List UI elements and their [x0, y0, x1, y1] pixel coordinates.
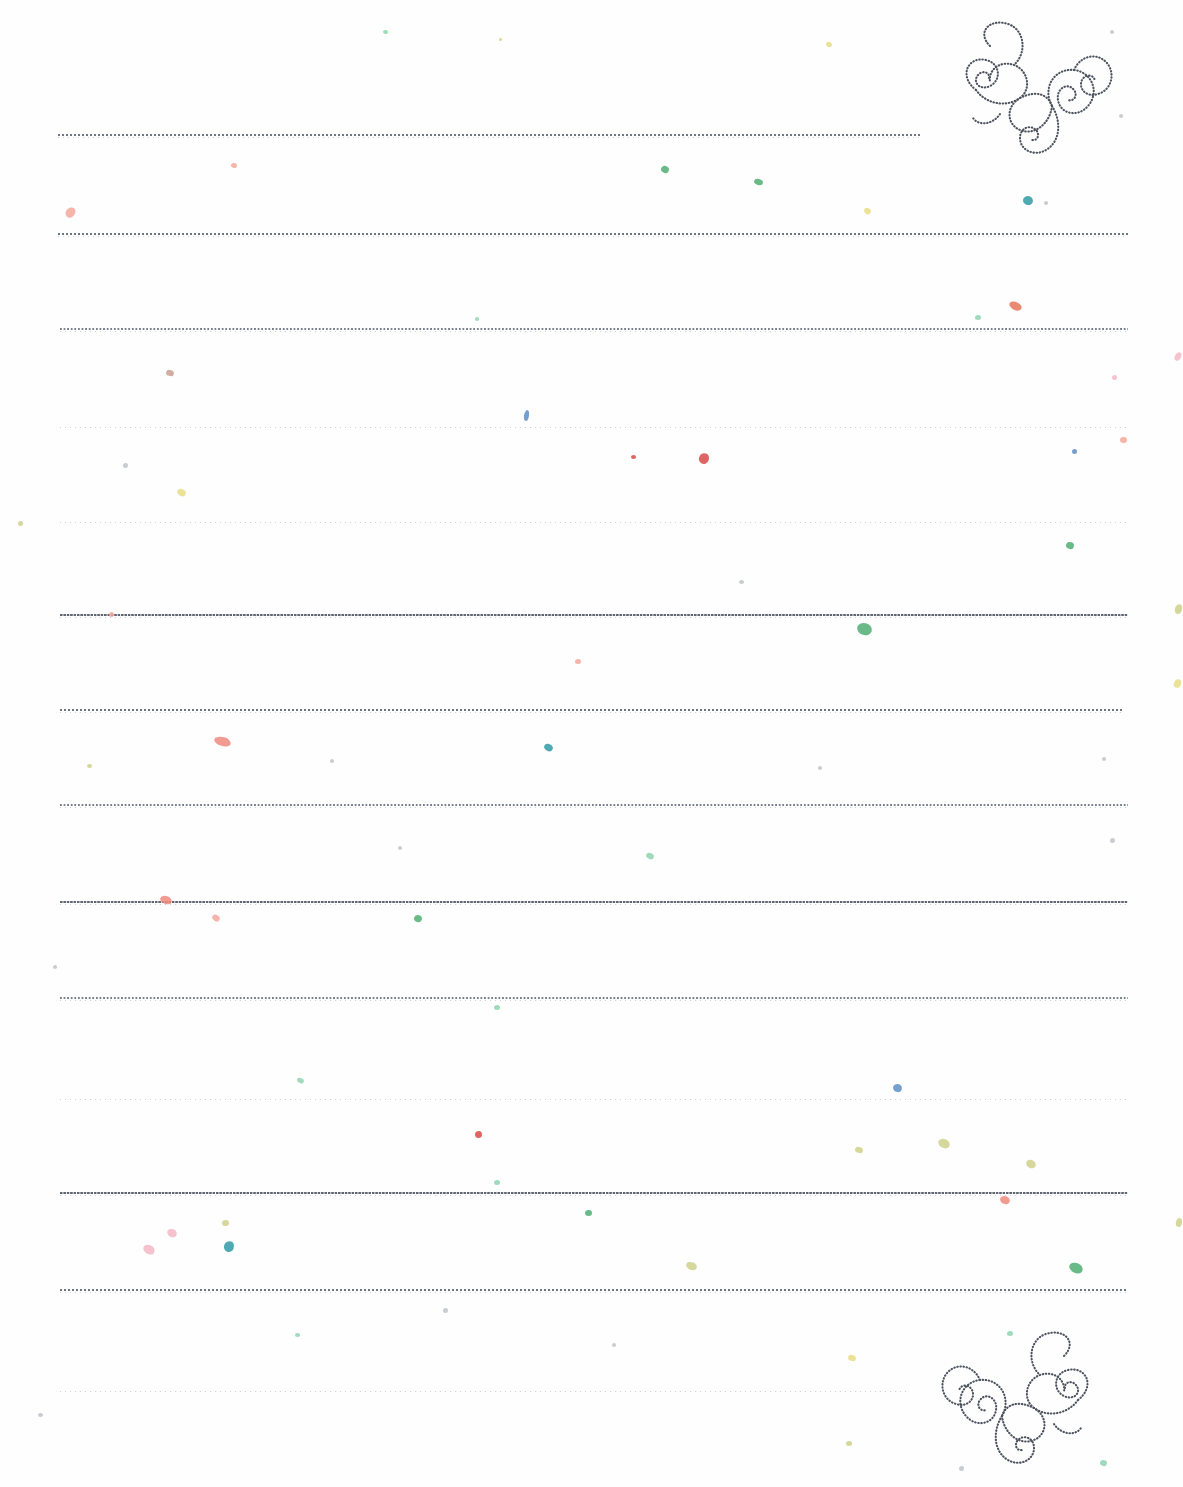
confetti-speck [64, 205, 78, 219]
confetti-speck [87, 764, 92, 768]
confetti-speck [854, 1146, 864, 1154]
confetti-speck [585, 1210, 592, 1216]
ruled-line [58, 134, 920, 136]
confetti-speck [612, 1343, 616, 1347]
ruled-line [60, 1192, 1128, 1194]
confetti-speck [1102, 757, 1106, 761]
confetti-speck [892, 1083, 903, 1093]
confetti-speck [383, 30, 389, 35]
ruled-line [60, 901, 1128, 903]
confetti-speck [863, 206, 872, 215]
confetti-speck [18, 521, 23, 526]
confetti-speck [494, 1005, 500, 1010]
confetti-speck [660, 164, 671, 174]
confetti-speck [38, 1413, 43, 1417]
ruled-line [60, 804, 1128, 806]
ruled-line [60, 614, 1128, 616]
confetti-speck [543, 742, 554, 753]
confetti-speck [222, 1240, 235, 1254]
confetti-speck [1173, 351, 1183, 362]
confetti-speck [937, 1137, 952, 1150]
confetti-speck [1022, 195, 1033, 206]
confetti-speck [142, 1243, 157, 1257]
confetti-speck [975, 315, 981, 320]
confetti-speck [1072, 449, 1077, 454]
ruled-line [60, 328, 1128, 330]
confetti-speck [494, 1180, 500, 1185]
confetti-speck [959, 1466, 964, 1471]
ruled-line [60, 424, 1128, 428]
confetti-speck [575, 659, 581, 664]
confetti-speck [475, 317, 479, 321]
ruled-line [60, 997, 1128, 999]
confetti-speck [330, 759, 334, 763]
confetti-speck [1007, 1331, 1013, 1336]
ruled-line [60, 1096, 1128, 1100]
confetti-speck [1174, 603, 1183, 615]
confetti-speck [645, 852, 655, 861]
confetti-speck [1120, 437, 1127, 443]
confetti-speck [222, 1220, 229, 1226]
confetti-speck [818, 766, 822, 770]
stationery-page [0, 0, 1183, 1487]
confetti-speck [123, 463, 128, 468]
confetti-speck [825, 41, 833, 48]
swirl-flourish-top-right-icon [928, 18, 1118, 168]
confetti-speck [1068, 1261, 1085, 1276]
confetti-speck [413, 914, 423, 923]
confetti-speck [1119, 114, 1123, 118]
confetti-speck [739, 580, 744, 584]
confetti-speck [398, 846, 402, 850]
confetti-speck [1008, 300, 1023, 313]
confetti-speck [999, 1195, 1011, 1206]
confetti-speck [475, 1131, 482, 1138]
confetti-speck [1110, 30, 1114, 34]
confetti-speck [1112, 375, 1117, 380]
confetti-speck [1172, 678, 1182, 689]
confetti-speck [847, 1354, 857, 1362]
ruled-line [58, 233, 1128, 235]
ruled-line [60, 519, 1128, 523]
confetti-speck [753, 178, 763, 186]
confetti-speck [1025, 1158, 1038, 1170]
confetti-speck [1044, 201, 1048, 205]
confetti-speck [1099, 1459, 1108, 1467]
confetti-speck [631, 455, 636, 459]
confetti-speck [499, 38, 502, 41]
swirl-flourish-bottom-right-icon [936, 1328, 1126, 1478]
confetti-speck [165, 369, 175, 377]
confetti-speck [443, 1308, 448, 1313]
confetti-speck [211, 913, 221, 923]
confetti-speck [109, 612, 114, 617]
confetti-speck [295, 1333, 300, 1337]
ruled-line [60, 1388, 908, 1392]
confetti-speck [166, 1227, 178, 1238]
confetti-speck [1110, 838, 1115, 843]
ruled-line [60, 1289, 1128, 1291]
confetti-speck [296, 1077, 304, 1084]
confetti-speck [523, 410, 530, 422]
confetti-speck [1175, 1217, 1183, 1227]
confetti-speck [685, 1260, 698, 1271]
confetti-speck [213, 735, 232, 748]
ruled-line [60, 709, 1122, 711]
confetti-speck [856, 621, 874, 636]
confetti-speck [176, 487, 187, 498]
confetti-speck [697, 451, 711, 465]
confetti-speck [846, 1441, 852, 1446]
confetti-speck [1065, 541, 1075, 550]
confetti-speck [53, 965, 57, 969]
confetti-speck [230, 162, 237, 169]
